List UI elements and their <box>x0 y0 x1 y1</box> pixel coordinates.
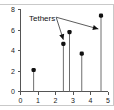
x-tick-label: 5 <box>106 97 110 104</box>
data-point-marker <box>61 42 65 46</box>
y-tick-label: 2 <box>11 68 15 75</box>
y-tick-label: 0 <box>11 88 15 95</box>
y-tick-labels: 0 2 4 6 8 <box>11 6 15 95</box>
data-point-marker <box>67 30 71 34</box>
annotation-label-tethers: Tethers <box>29 14 55 23</box>
x-tick-labels: 0 1 2 3 4 5 <box>19 97 111 104</box>
data-point-marker <box>80 51 84 55</box>
x-tick-label: 2 <box>54 97 58 104</box>
y-tick-label: 6 <box>11 27 15 34</box>
x-tick-label: 3 <box>71 97 75 104</box>
chart-figure: 0 2 4 6 8 0 1 2 3 4 5 Tethers <box>0 0 114 110</box>
x-tick-label: 0 <box>19 97 23 104</box>
x-tick-label: 4 <box>89 97 93 104</box>
data-point-marker <box>32 68 36 72</box>
stem-plot-svg: 0 2 4 6 8 0 1 2 3 4 5 Tethers <box>0 0 114 110</box>
y-tick-label: 8 <box>11 6 15 13</box>
y-tick-label: 4 <box>11 47 15 54</box>
x-tick-label: 1 <box>36 97 40 104</box>
data-point-marker <box>99 14 103 18</box>
